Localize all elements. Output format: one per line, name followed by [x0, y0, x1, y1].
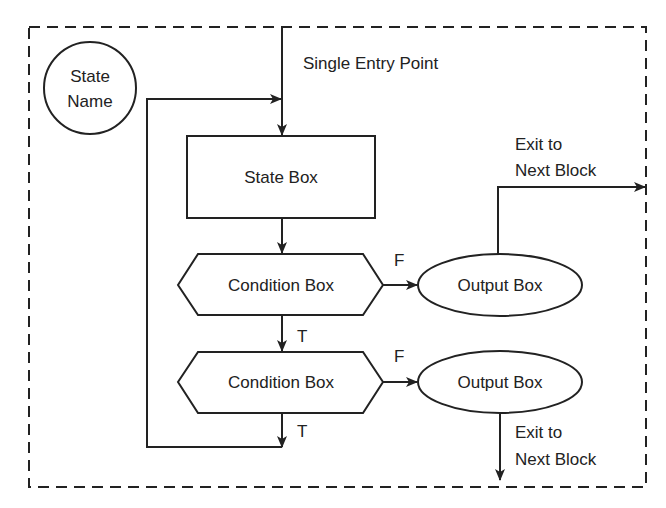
output1-exit-line1: Exit to: [515, 135, 562, 154]
condition2-false-label: F: [394, 347, 404, 366]
output-box-1: Output Box: [418, 254, 582, 316]
entry-point-label: Single Entry Point: [303, 54, 438, 73]
state-box: State Box: [187, 136, 375, 218]
state-name-line1: State: [70, 67, 110, 86]
state-box-label: State Box: [244, 168, 318, 187]
asm-block-diagram: State Name Single Entry Point State Box …: [0, 0, 666, 508]
output2-exit-line1: Exit to: [515, 423, 562, 442]
output-box-2: Output Box: [418, 351, 582, 413]
output1-exit-arrow: [498, 187, 645, 254]
state-name-line2: Name: [67, 92, 112, 111]
condition-box-2-label: Condition Box: [228, 373, 334, 392]
output-box-1-label: Output Box: [457, 276, 543, 295]
state-name-circle: State Name: [44, 42, 136, 134]
output2-exit-line2: Next Block: [515, 450, 597, 469]
condition-box-1: Condition Box: [178, 254, 383, 315]
output1-exit-line2: Next Block: [515, 161, 597, 180]
output-box-2-label: Output Box: [457, 373, 543, 392]
condition-box-1-label: Condition Box: [228, 276, 334, 295]
condition-box-2: Condition Box: [178, 352, 383, 413]
condition1-true-label: T: [297, 327, 307, 346]
entry-point: Single Entry Point: [282, 27, 438, 135]
condition2-true-label: T: [297, 422, 307, 441]
condition1-false-label: F: [394, 251, 404, 270]
